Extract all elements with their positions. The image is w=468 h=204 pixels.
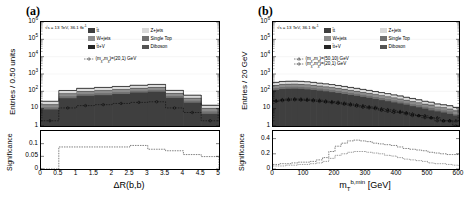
x-tick-label: 100 <box>293 170 313 177</box>
histogram-bar <box>347 95 354 126</box>
histogram-bar <box>59 98 77 126</box>
legend-swatch <box>142 45 149 50</box>
histogram-bar <box>341 94 348 126</box>
signal-legend-label: (mχ̃,mχ̃)=(20,1) GeV <box>306 61 347 66</box>
histogram-bar <box>285 89 292 126</box>
histogram-bar <box>298 89 305 126</box>
histogram-bar <box>391 102 398 126</box>
panel-b-lumi-text: √s = 13 TeV, 36.1 fb-1 <box>277 25 319 30</box>
y-tick-label: 103 <box>14 70 38 77</box>
y-tick-label: 105 <box>246 35 270 42</box>
legend-label: t̄t <box>97 28 100 33</box>
histogram-bar <box>397 103 404 126</box>
panel-b-y-axis-title: Entries / 20 GeV <box>240 51 249 110</box>
y-tick-label: 10 <box>246 104 270 111</box>
legend-label: Single Top <box>151 36 172 41</box>
legend-label: Diboson <box>151 44 168 49</box>
panel-a-main-plot <box>40 21 220 127</box>
panel-b-main-plot <box>272 21 460 127</box>
y-tick-label: 104 <box>14 52 38 59</box>
legend-label: Single Top <box>389 36 410 41</box>
histogram-bar <box>292 89 299 126</box>
y-tick-label: 102 <box>246 87 270 94</box>
panel-b: (b) Entries / 20 GeV 106105104103102101 … <box>232 0 463 204</box>
legend-swatch <box>88 28 95 33</box>
panel-a-lumi-text: √s = 13 TeV, 36.1 fb-1 <box>45 25 87 30</box>
histogram-bar <box>323 91 330 126</box>
panel-b-x-title-sub: T <box>347 186 351 192</box>
panel-b-lumi-value: √s = 13 TeV, 36.1 fb <box>277 25 316 30</box>
legend-entry: Single Top <box>142 36 172 41</box>
panel-b-ratio-y-title: Significance <box>238 133 245 171</box>
signal-legend-entry: (mχ̃,mχ̃)=(20,1) GeV <box>84 56 136 61</box>
y-tick-label: 106 <box>14 18 38 25</box>
panel-b-x-title-sup: b,min <box>350 179 365 185</box>
legend-entry: Single Top <box>380 36 410 41</box>
legend-swatch <box>324 45 331 50</box>
legend-swatch <box>88 36 95 41</box>
panel-a-significance-plot <box>40 130 220 170</box>
histogram-bar <box>409 106 416 126</box>
ratio-y-tick-label: 0.1 <box>14 140 38 147</box>
panel-b-histogram <box>273 22 459 126</box>
x-tick-label: 5 <box>208 170 228 177</box>
panel-a-ratio-y-title: Significance <box>6 133 13 171</box>
panel-b-x-axis-title: mTb,min [GeV] <box>272 179 458 192</box>
legend-swatch <box>88 45 95 50</box>
histogram-bar <box>378 100 385 126</box>
legend-entry: t̄t+V <box>88 44 105 49</box>
legend-swatch <box>324 28 331 33</box>
legend-entry: t̄t <box>88 28 99 33</box>
legend-label: t̄t+V <box>333 44 341 49</box>
panel-b-x-title-unit: [GeV] <box>365 180 391 190</box>
y-tick-label: 106 <box>246 18 270 25</box>
legend-swatch <box>324 36 331 41</box>
legend-entry: t̄t <box>324 28 335 33</box>
legend-swatch <box>142 28 149 33</box>
signal-legend-label: (mχ̃,mχ̃)=(50,10) GeV <box>306 56 349 61</box>
signal-legend-label: (mχ̃,mχ̃)=(20,1) GeV <box>96 56 137 61</box>
legend-swatch <box>380 45 387 50</box>
x-tick-label: 400 <box>386 170 406 177</box>
x-tick-label: 200 <box>324 170 344 177</box>
x-tick-label: 300 <box>355 170 375 177</box>
histogram-bar <box>403 105 410 126</box>
panel-a: (a) Entries / 0.50 units 106105104103102… <box>0 0 231 204</box>
x-tick-label: 600 <box>448 170 468 177</box>
legend-entry: W+jets <box>324 36 347 41</box>
histogram-bar <box>428 110 435 126</box>
legend-entry: t̄t+V <box>324 44 341 49</box>
histogram-bar <box>94 95 112 126</box>
legend-swatch <box>142 36 149 41</box>
y-tick-label: 102 <box>14 87 38 94</box>
legend-swatch <box>380 36 387 41</box>
panel-a-significance-curve <box>41 131 219 169</box>
open-triangle-marker-icon <box>294 57 304 61</box>
ratio-y-tick-label: 0.05 <box>14 152 38 159</box>
open-circle-marker-icon <box>84 57 94 61</box>
y-tick-label: 104 <box>246 52 270 59</box>
legend-entry: Diboson <box>380 44 405 49</box>
y-tick-label: 105 <box>14 35 38 42</box>
panel-b-significance-plot <box>272 130 460 170</box>
legend-label: t̄t+V <box>97 44 105 49</box>
legend-swatch <box>380 28 387 33</box>
histogram-bar <box>279 89 286 126</box>
histogram-bar <box>335 93 342 126</box>
panel-b-significance-curves <box>273 131 459 169</box>
y-tick-label: 1 <box>14 122 38 129</box>
panel-a-histogram <box>41 22 219 126</box>
y-tick-label: 1 <box>246 122 270 129</box>
histogram-bar <box>366 98 373 126</box>
panel-b-lumi-exp: -1 <box>316 24 319 28</box>
x-tick-label: 0 <box>262 170 282 177</box>
legend-entry: Z+jets <box>142 28 163 33</box>
histogram-bar <box>304 89 311 126</box>
histogram-bar <box>166 98 184 126</box>
legend-label: t̄t <box>333 28 336 33</box>
histogram-bar <box>422 109 429 126</box>
histogram-bar <box>360 97 367 126</box>
histogram-bar <box>385 101 392 126</box>
histogram-bar <box>310 90 317 126</box>
